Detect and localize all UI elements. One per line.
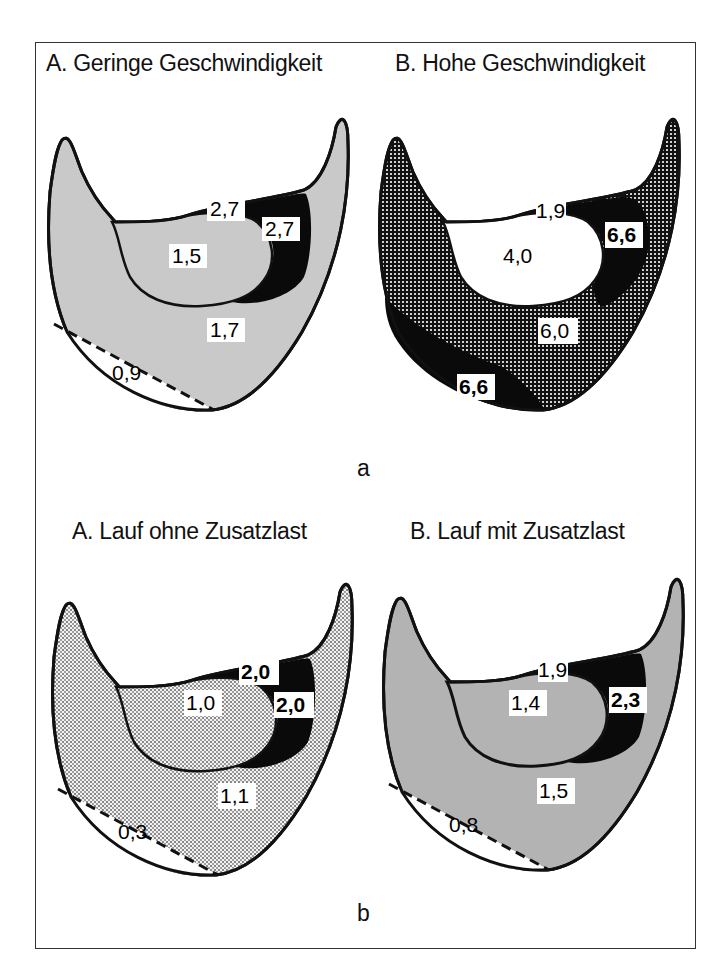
value-toe-top: 2,0 xyxy=(241,660,270,683)
label-toe-side: 2,3 xyxy=(609,687,647,713)
value-toe-side: 2,0 xyxy=(276,693,305,716)
label-outer: 6,0 xyxy=(538,318,578,344)
value-edge: 0,8 xyxy=(449,813,478,836)
value-toe-side: 2,3 xyxy=(611,688,640,711)
value-inner: 1,5 xyxy=(172,244,201,267)
value-edge: 6,6 xyxy=(459,375,488,398)
label-outer: 1,5 xyxy=(537,778,575,804)
value-inner: 1,0 xyxy=(186,691,215,714)
value-inner: 1,4 xyxy=(511,691,541,714)
value-toe-top: 1,9 xyxy=(538,658,567,681)
value-inner: 4,0 xyxy=(503,244,532,267)
value-outer: 1,5 xyxy=(539,779,568,802)
value-toe-top: 2,7 xyxy=(210,197,239,220)
label-outer: 1,1 xyxy=(218,783,256,809)
label-toe-side: 2,7 xyxy=(262,217,300,241)
label-toe-side: 2,0 xyxy=(274,692,314,718)
label-toe-top: 1,9 xyxy=(536,199,566,223)
panel-lauf-mit-zusatzlast: 1,9 2,3 1,4 1,5 0,8 xyxy=(384,579,684,870)
label-toe-side: 6,6 xyxy=(605,222,643,248)
label-outer: 1,7 xyxy=(207,318,245,342)
value-toe-side: 2,7 xyxy=(265,217,294,240)
label-inner: 1,0 xyxy=(184,690,222,716)
value-edge: 0,3 xyxy=(118,820,147,843)
label-inner: 1,4 xyxy=(509,690,547,716)
label-toe-top: 1,9 xyxy=(538,658,568,682)
value-toe-top: 1,9 xyxy=(536,199,565,222)
label-inner: 1,5 xyxy=(169,244,207,268)
value-outer: 1,7 xyxy=(210,318,239,341)
value-edge: 0,9 xyxy=(112,361,141,384)
label-toe-top: 2,7 xyxy=(207,197,245,221)
pressure-diagrams: 2,7 2,7 1,5 1,7 0,9 1,9 6,6 4,0 xyxy=(0,0,721,973)
panel-hohe-geschwindigkeit: 1,9 6,6 4,0 6,0 6,6 xyxy=(380,119,680,410)
label-edge: 6,6 xyxy=(457,374,495,400)
label-toe-top: 2,0 xyxy=(239,659,279,685)
panel-lauf-ohne-zusatzlast: 2,0 2,0 1,0 1,1 0,3 xyxy=(53,584,353,875)
value-toe-side: 6,6 xyxy=(607,223,636,246)
value-outer: 6,0 xyxy=(540,319,569,342)
panel-geringe-geschwindigkeit: 2,7 2,7 1,5 1,7 0,9 xyxy=(49,119,349,410)
value-outer: 1,1 xyxy=(220,784,249,807)
